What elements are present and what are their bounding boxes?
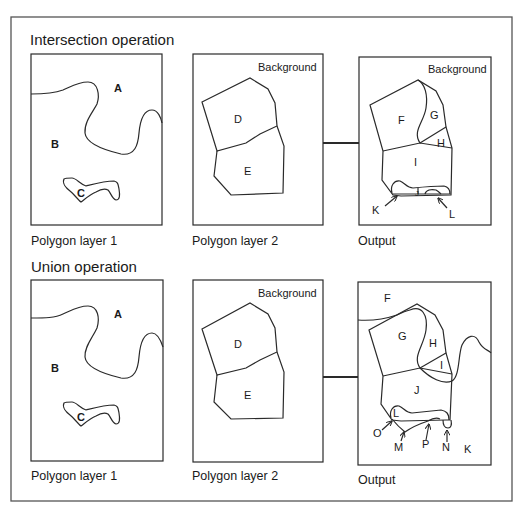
region-b-label: B	[51, 138, 59, 150]
background-label: Background	[258, 287, 317, 299]
intersection-layer1-caption: Polygon layer 1	[31, 234, 117, 248]
region-h-label: H	[429, 337, 437, 349]
region-j-label: J	[415, 189, 419, 198]
union-layer1-caption: Polygon layer 1	[31, 469, 117, 483]
region-f-label: F	[384, 292, 391, 304]
region-f-label: F	[398, 114, 405, 126]
region-o-label: O	[373, 427, 382, 439]
intersection-output-panel: Background F G H I J K L Output	[358, 57, 491, 248]
intersection-layer1-panel: A B C Polygon layer 1	[31, 54, 162, 248]
intersection-title: Intersection operation	[30, 31, 174, 48]
region-g-label: G	[430, 109, 439, 121]
region-l-label: L	[449, 208, 455, 220]
region-e-label: E	[244, 165, 251, 177]
region-k-label: K	[372, 204, 380, 216]
region-h-label: H	[437, 137, 445, 149]
region-d-label: D	[234, 338, 242, 350]
union-layer1-panel: A B C Polygon layer 1	[31, 280, 163, 483]
region-a-label: A	[114, 308, 122, 320]
region-i-label: I	[440, 359, 443, 371]
region-b-label: B	[51, 362, 59, 374]
overlay-diagram: Intersection operation A B C Polygon lay…	[0, 0, 523, 518]
output-background-label: Background	[428, 63, 487, 75]
region-c-label: C	[77, 411, 85, 423]
region-c-label: C	[77, 187, 85, 199]
union-section: Union operation A B C Polygon layer 1 Ba…	[31, 258, 491, 487]
union-output-panel: F G H I J L O M P N K Output	[358, 282, 491, 487]
intersection-output-caption: Output	[358, 234, 396, 248]
region-g-label: G	[398, 330, 407, 342]
union-layer2-panel: Background D E Polygon layer 2	[192, 280, 323, 483]
region-k-label: K	[464, 443, 472, 455]
region-d-label: D	[234, 113, 242, 125]
region-e-label: E	[244, 389, 251, 401]
union-layer2-caption: Polygon layer 2	[192, 469, 278, 483]
intersection-layer2-panel: Background D E Polygon layer 2	[192, 54, 323, 248]
intersection-layer2-caption: Polygon layer 2	[192, 234, 278, 248]
background-label: Background	[258, 61, 317, 73]
intersection-section: Intersection operation A B C Polygon lay…	[30, 31, 491, 248]
region-l-label: L	[393, 407, 399, 419]
union-output-caption: Output	[358, 473, 396, 487]
region-j-label: J	[414, 384, 420, 396]
union-title: Union operation	[31, 258, 137, 275]
region-a-label: A	[114, 82, 122, 94]
region-m-label: M	[394, 441, 403, 453]
region-p-label: P	[422, 438, 429, 450]
region-n-label: N	[442, 441, 450, 453]
region-i-label: I	[414, 156, 417, 168]
